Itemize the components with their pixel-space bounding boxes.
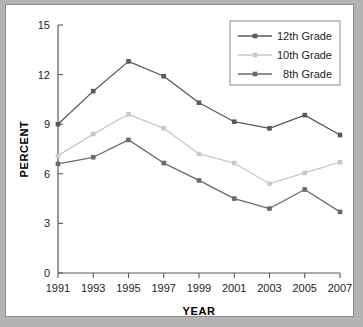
data-point	[197, 100, 202, 105]
data-point	[161, 74, 166, 79]
x-tick-label: 1995	[116, 282, 140, 294]
y-tick-label: 6	[44, 168, 50, 180]
data-point	[161, 161, 166, 166]
data-point	[302, 187, 307, 192]
x-axis-ticks	[58, 273, 340, 278]
series-line	[58, 140, 340, 212]
data-point	[56, 162, 61, 167]
data-point	[267, 206, 272, 211]
series-line	[58, 114, 340, 183]
data-point	[126, 112, 131, 117]
data-point	[232, 161, 237, 166]
series-2	[56, 112, 343, 186]
legend-marker	[253, 53, 258, 58]
chart-figure: 03691215 1991199319951997199920012003200…	[5, 4, 354, 317]
line-chart: 03691215 1991199319951997199920012003200…	[6, 5, 353, 316]
data-point	[338, 210, 343, 215]
x-tick-label: 2003	[257, 282, 281, 294]
data-point	[267, 126, 272, 131]
series-3	[56, 138, 343, 215]
data-point	[91, 132, 96, 137]
chart-legend: 12th Grade10th Grade8th Grade	[230, 21, 340, 85]
data-point	[91, 89, 96, 94]
data-point	[232, 196, 237, 201]
x-tick-label: 2005	[293, 282, 317, 294]
y-tick-label: 9	[44, 118, 50, 130]
legend-label: 8th Grade	[283, 68, 332, 80]
data-point	[56, 122, 61, 127]
data-point	[232, 119, 237, 124]
data-point	[56, 153, 61, 158]
data-point	[126, 138, 131, 143]
x-tick-label: 2007	[328, 282, 352, 294]
data-point	[197, 178, 202, 183]
x-axis-tick-labels: 199119931995199719992001200320052007	[46, 282, 352, 294]
data-point	[91, 155, 96, 160]
y-tick-label: 15	[38, 19, 50, 31]
data-point	[302, 171, 307, 176]
y-tick-label: 12	[38, 69, 50, 81]
legend-label: 12th Grade	[277, 30, 332, 42]
y-tick-label: 3	[44, 217, 50, 229]
x-axis-title: YEAR	[183, 305, 216, 316]
data-point	[126, 59, 131, 64]
data-point	[338, 133, 343, 138]
y-axis-tick-labels: 03691215	[38, 19, 50, 279]
data-point	[302, 113, 307, 118]
legend-marker	[253, 34, 258, 39]
legend-label: 10th Grade	[277, 49, 332, 61]
x-tick-label: 1997	[152, 282, 176, 294]
x-tick-label: 1991	[46, 282, 70, 294]
x-tick-label: 2001	[222, 282, 246, 294]
data-point	[338, 160, 343, 165]
data-point	[197, 152, 202, 157]
x-tick-label: 1999	[187, 282, 211, 294]
x-tick-label: 1993	[81, 282, 105, 294]
y-axis-title: PERCENT	[18, 121, 30, 178]
y-tick-label: 0	[44, 267, 50, 279]
y-axis-ticks	[58, 25, 63, 273]
legend-marker	[253, 72, 258, 77]
data-point	[161, 126, 166, 131]
data-point	[267, 181, 272, 186]
